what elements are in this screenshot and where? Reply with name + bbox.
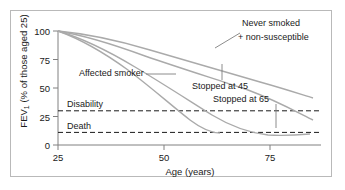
annotation-stopped-at-65: Stopped at 65 bbox=[213, 95, 269, 104]
x-tick-label-25: 25 bbox=[48, 153, 68, 163]
y-tick-label-50: 50 bbox=[26, 84, 50, 94]
x-axis-title: Age (years) bbox=[125, 167, 255, 177]
leader-never-smoked bbox=[215, 33, 240, 48]
fev1-decline-chart-figure: FEV1 (% of those aged 25) 100 75 50 25 0… bbox=[0, 0, 345, 190]
y-tick-label-0: 0 bbox=[26, 141, 50, 151]
x-tick-label-75: 75 bbox=[260, 153, 280, 163]
annotation-never-smoked: Never smoked bbox=[242, 19, 300, 28]
y-tick-label-75: 75 bbox=[26, 56, 50, 66]
y-tick-label-25: 25 bbox=[26, 113, 50, 123]
threshold-label-disability: Disability bbox=[67, 100, 103, 109]
annotation-affected-smoker: Affected smoker bbox=[79, 69, 144, 78]
threshold-label-death: Death bbox=[67, 122, 91, 131]
y-tick-label-100: 100 bbox=[26, 27, 50, 37]
annotation-non-susceptible: + non-susceptible bbox=[238, 33, 309, 42]
y-axis-title-subscript: 1 bbox=[23, 105, 30, 109]
annotation-stopped-at-45: Stopped at 45 bbox=[192, 82, 248, 91]
x-tick-label-50: 50 bbox=[154, 153, 174, 163]
curve-stopped-at-65 bbox=[58, 31, 310, 135]
